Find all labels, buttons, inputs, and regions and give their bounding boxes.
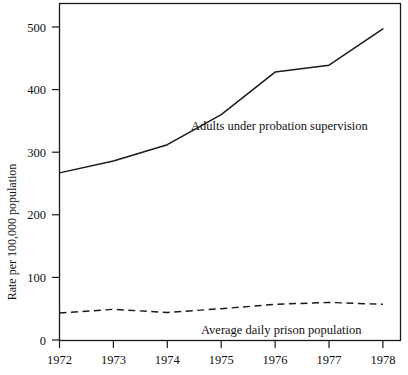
y-axis-tick-labels: 0 100 200 300 400 500 bbox=[27, 21, 46, 348]
series-annotation-probation: Adults under probation supervision bbox=[191, 119, 368, 133]
series-line-prison bbox=[60, 302, 383, 313]
x-tick-label-1972: 1972 bbox=[47, 353, 72, 367]
x-tick-label-1977: 1977 bbox=[317, 353, 342, 367]
x-tick-label-1978: 1978 bbox=[370, 353, 395, 367]
x-axis-ticks bbox=[60, 341, 383, 349]
y-axis-title: Rate per 100,000 population bbox=[5, 164, 19, 301]
chart-container: 0 100 200 300 400 500 1972 1973 1974 197… bbox=[0, 0, 408, 375]
x-tick-label-1975: 1975 bbox=[209, 353, 234, 367]
line-chart: 0 100 200 300 400 500 1972 1973 1974 197… bbox=[0, 0, 408, 375]
y-axis-ticks bbox=[52, 27, 60, 340]
y-tick-label-100: 100 bbox=[27, 271, 46, 285]
x-axis-tick-labels: 1972 1973 1974 1975 1976 1977 1978 bbox=[47, 353, 395, 367]
y-tick-label-400: 400 bbox=[27, 83, 46, 97]
x-tick-label-1976: 1976 bbox=[263, 353, 288, 367]
series-line-probation bbox=[60, 29, 383, 173]
y-tick-label-0: 0 bbox=[40, 334, 46, 348]
x-tick-label-1973: 1973 bbox=[101, 353, 126, 367]
y-tick-label-300: 300 bbox=[27, 146, 46, 160]
y-tick-label-500: 500 bbox=[27, 21, 46, 35]
plot-frame bbox=[60, 4, 401, 341]
y-tick-label-200: 200 bbox=[27, 208, 46, 222]
x-tick-label-1974: 1974 bbox=[155, 353, 181, 367]
series-annotation-prison: Average daily prison population bbox=[201, 323, 362, 337]
